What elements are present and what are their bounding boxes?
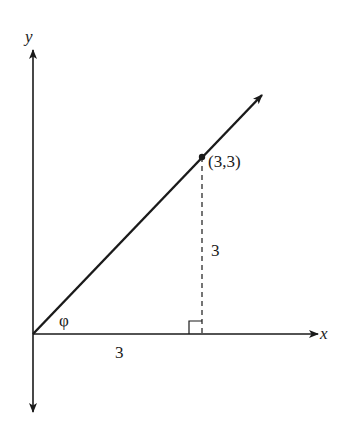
- horizontal-leg-label: 3: [115, 343, 124, 362]
- point-label: (3,3): [208, 152, 241, 171]
- point-dot: [199, 154, 205, 160]
- y-axis-label: y: [23, 27, 33, 46]
- ray-line: [33, 95, 262, 334]
- right-angle-marker: [189, 321, 202, 334]
- vertical-leg-label: 3: [211, 241, 220, 260]
- coordinate-diagram: y x (3,3) 3 3 φ: [0, 0, 347, 439]
- x-axis-label: x: [319, 324, 328, 343]
- angle-phi-label: φ: [59, 311, 69, 330]
